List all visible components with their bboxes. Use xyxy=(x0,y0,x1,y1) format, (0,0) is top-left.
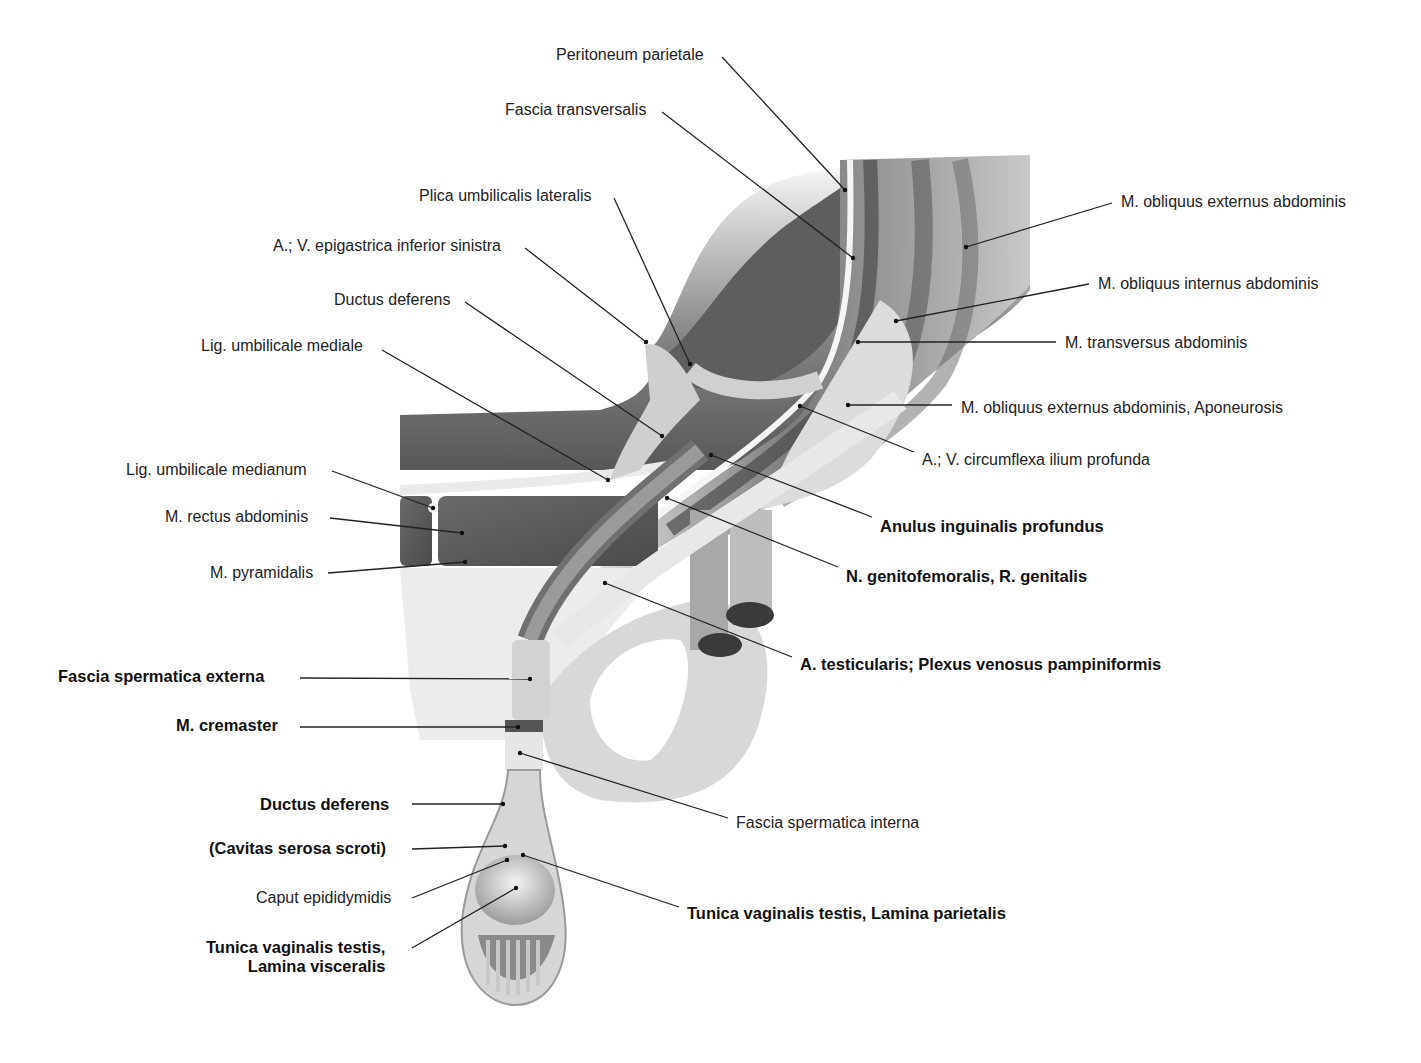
label-m-obliquus-externus-aponeurosis: M. obliquus externus abdominis, Aponeuro… xyxy=(961,398,1283,417)
label-m-obliquus-internus-abdominis: M. obliquus internus abdominis xyxy=(1098,274,1319,293)
label-m-pyramidalis: M. pyramidalis xyxy=(210,563,313,582)
leader-dot-ductus-deferens-lower xyxy=(501,802,505,806)
leader-line-peritoneum-parietale xyxy=(722,57,845,190)
leader-dot-n-genitofemoralis-r-genitalis xyxy=(665,496,669,500)
label-fascia-spermatica-interna: Fascia spermatica interna xyxy=(736,813,919,832)
label-ductus-deferens-lower: Ductus deferens xyxy=(260,795,389,814)
leader-dot-a-v-circumflexa-ilium-profunda xyxy=(798,404,802,408)
label-n-genitofemoralis-r-genitalis: N. genitofemoralis, R. genitalis xyxy=(846,567,1087,586)
testis xyxy=(462,770,566,1005)
label-a-v-circumflexa-ilium-profunda: A.; V. circumflexa ilium profunda xyxy=(922,450,1150,469)
leader-dot-plica-umbilicalis-lateralis xyxy=(688,362,692,366)
leader-dot-m-obliquus-externus-aponeurosis xyxy=(846,403,850,407)
leader-dot-fascia-spermatica-externa xyxy=(528,677,532,681)
label-lig-umbilicale-medianum: Lig. umbilicale medianum xyxy=(126,460,307,479)
leader-dot-m-obliquus-internus-abdominis xyxy=(894,319,898,323)
leader-dot-a-testicularis-plexus-pampiniformis xyxy=(603,581,607,585)
label-cavitas-serosa-scroti: (Cavitas serosa scroti) xyxy=(209,839,386,858)
leader-dot-lig-umbilicale-medianum xyxy=(431,506,435,510)
label-anulus-inguinalis-profundus: Anulus inguinalis profundus xyxy=(880,517,1104,536)
leader-dot-ductus-deferens-upper xyxy=(660,434,664,438)
label-lig-umbilicale-mediale: Lig. umbilicale mediale xyxy=(201,336,363,355)
leader-dot-m-cremaster xyxy=(516,725,520,729)
leader-dot-fascia-spermatica-interna xyxy=(518,751,522,755)
leader-dot-m-rectus-abdominis xyxy=(460,531,464,535)
leader-dot-tunica-vaginalis-lamina-visceralis xyxy=(514,886,518,890)
leader-dot-m-transversus-abdominis xyxy=(856,340,860,344)
label-ductus-deferens-upper: Ductus deferens xyxy=(334,290,451,309)
leader-dot-caput-epididymidis xyxy=(505,858,509,862)
leader-dot-anulus-inguinalis-profundus xyxy=(709,453,713,457)
label-m-rectus-abdominis: M. rectus abdominis xyxy=(165,507,308,526)
leader-dot-fascia-transversalis xyxy=(851,256,855,260)
label-peritoneum-parietale: Peritoneum parietale xyxy=(556,45,704,64)
label-a-testicularis-plexus-pampiniformis: A. testicularis; Plexus venosus pampinif… xyxy=(800,655,1161,674)
leader-dot-lig-umbilicale-mediale xyxy=(606,478,610,482)
label-tunica-vaginalis-lamina-parietalis: Tunica vaginalis testis, Lamina parietal… xyxy=(687,904,1006,923)
leader-dot-a-v-epigastrica-inferior-sinistra xyxy=(644,340,648,344)
label-a-v-epigastrica-inferior-sinistra: A.; V. epigastrica inferior sinistra xyxy=(273,236,501,255)
label-fascia-transversalis: Fascia transversalis xyxy=(505,100,646,119)
label-m-obliquus-externus-abdominis: M. obliquus externus abdominis xyxy=(1121,192,1346,211)
leader-dot-tunica-vaginalis-lamina-parietalis xyxy=(521,853,525,857)
leader-line-plica-umbilicalis-lateralis xyxy=(614,198,690,364)
leader-dot-m-pyramidalis xyxy=(463,560,467,564)
leader-line-a-v-epigastrica-inferior-sinistra xyxy=(525,248,646,342)
label-m-cremaster: M. cremaster xyxy=(176,716,278,735)
leader-dot-m-obliquus-externus-abdominis xyxy=(964,245,968,249)
label-tunica-vaginalis-lamina-visceralis: Tunica vaginalis testis,Lamina viscerali… xyxy=(206,938,385,976)
label-plica-umbilicalis-lateralis: Plica umbilicalis lateralis xyxy=(419,186,592,205)
anatomy-figure: Peritoneum parietaleFascia transversalis… xyxy=(0,0,1421,1063)
leader-dot-cavitas-serosa-scroti xyxy=(503,844,507,848)
label-m-transversus-abdominis: M. transversus abdominis xyxy=(1065,333,1247,352)
label-fascia-spermatica-externa: Fascia spermatica externa xyxy=(58,667,264,686)
label-caput-epididymidis: Caput epididymidis xyxy=(256,888,391,907)
leader-dot-peritoneum-parietale xyxy=(843,188,847,192)
